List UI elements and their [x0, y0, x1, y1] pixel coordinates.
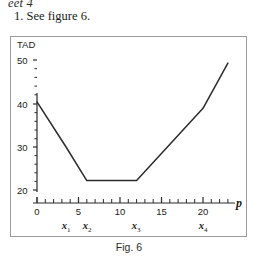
y-tick-label-20: 20: [17, 185, 28, 196]
tad-vs-p-line-chart: TAD 50 40 30 20: [11, 37, 246, 236]
breakpoint-label-x4: x4: [198, 220, 208, 234]
x-axis-title: p: [235, 196, 242, 210]
y-axis-group: TAD 50 40 30 20: [17, 39, 37, 196]
breakpoint-label-x3: x3: [131, 220, 141, 234]
tad-series-line: [37, 63, 228, 180]
figure-caption: Fig. 6: [0, 241, 258, 253]
x-axis-group: 0 5 10 15 20 p: [33, 196, 242, 217]
y-tick-label-40: 40: [17, 99, 28, 110]
x-tick-label-20: 20: [198, 206, 209, 217]
y-tick-label-30: 30: [17, 142, 28, 153]
x-tick-label-10: 10: [115, 206, 126, 217]
exercise-prompt: 1. See figure 6.: [14, 9, 90, 24]
x-tick-label-15: 15: [156, 206, 167, 217]
breakpoint-label-x2: x2: [82, 220, 92, 234]
y-tick-label-50: 50: [17, 55, 28, 66]
x-tick-label-0: 0: [34, 206, 39, 217]
breakpoint-labels: x1 x2 x3 x4: [61, 220, 208, 234]
x-axis-major-ticks: [79, 197, 204, 203]
x-tick-label-5: 5: [76, 206, 81, 217]
breakpoint-label-x1: x1: [61, 220, 71, 234]
y-axis-title: TAD: [17, 39, 35, 50]
figure-box: TAD 50 40 30 20: [10, 36, 247, 237]
